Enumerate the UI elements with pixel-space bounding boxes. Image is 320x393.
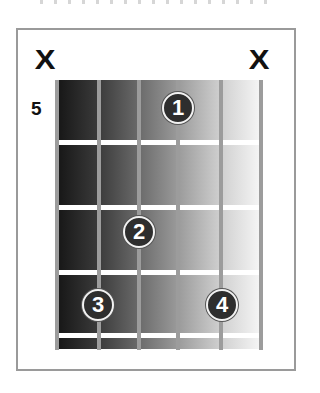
finger-dot-4: 4 xyxy=(206,289,238,321)
string-1 xyxy=(259,80,263,350)
cropped-header-text xyxy=(40,0,270,4)
finger-dot-2: 2 xyxy=(123,216,155,248)
fret-line-3 xyxy=(57,270,261,275)
mute-marker-low-e: X xyxy=(35,49,56,71)
string-6 xyxy=(55,80,59,350)
string-4 xyxy=(137,80,141,350)
finger-dot-1: 1 xyxy=(162,92,194,124)
fret-line-2 xyxy=(57,205,261,210)
finger-dot-3: 3 xyxy=(82,289,114,321)
fret-line-4 xyxy=(57,333,261,338)
mute-marker-high-e: X xyxy=(249,49,270,71)
fret-line-1 xyxy=(57,140,261,145)
start-fret-label: 5 xyxy=(31,98,42,120)
